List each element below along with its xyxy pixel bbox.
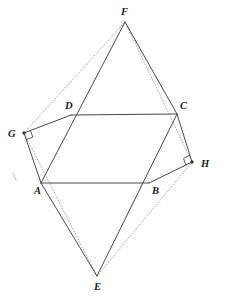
- vertex-label-G: G: [8, 128, 16, 139]
- solid-edges-group: [24, 22, 192, 276]
- edge-F-C-B: [125, 22, 177, 114]
- figure-canvas: F D C G H A B E: [0, 0, 226, 299]
- vertex-label-D: D: [64, 100, 73, 111]
- dotted-G-E: [24, 133, 97, 276]
- vertex-label-A: A: [33, 185, 41, 196]
- vertex-dot-G: [22, 131, 25, 134]
- vertex-label-F: F: [120, 6, 128, 17]
- edge-G-A: [24, 133, 41, 183]
- edge-C-H: [177, 114, 192, 162]
- dotted-edges-group: [24, 22, 192, 276]
- vertex-dots-group: [22, 131, 193, 163]
- edge-G-D: [24, 115, 71, 133]
- edge-A-E: [41, 183, 97, 276]
- right-angle-markers-group: [26, 131, 190, 166]
- vertex-dot-H: [190, 160, 193, 163]
- edge-D-C: [71, 114, 177, 115]
- vertex-label-C: C: [180, 100, 188, 111]
- vertex-label-E: E: [93, 281, 101, 292]
- scan-speck: [13, 173, 16, 180]
- vertex-label-B: B: [151, 185, 159, 196]
- edge-B-H: [149, 162, 192, 183]
- dotted-F-H: [125, 22, 192, 162]
- edge-F-D-A: [41, 22, 125, 183]
- geometry-figure: F D C G H A B E: [0, 0, 226, 299]
- vertex-label-H: H: [200, 158, 210, 169]
- vertex-labels-group: F D C G H A B E: [8, 6, 210, 292]
- dotted-G-F: [24, 22, 125, 133]
- edge-C-B-E: [97, 114, 177, 276]
